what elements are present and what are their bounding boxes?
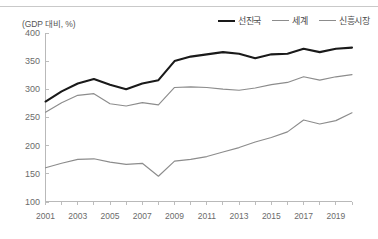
x-tick-label: 2001 [36, 211, 55, 221]
plot-area: 100150200250300350400 200120032005200720… [0, 0, 378, 239]
x-tick-label: 2011 [198, 211, 217, 221]
series-line-emerging [46, 113, 353, 176]
y-tick-label: 200 [25, 141, 40, 151]
x-tick-label: 2009 [165, 211, 184, 221]
y-tick-label: 250 [25, 112, 40, 122]
y-tick-label: 100 [25, 197, 40, 207]
y-tick-label: 300 [25, 84, 40, 94]
x-tick-label: 2015 [262, 211, 281, 221]
y-tick-label: 350 [25, 56, 40, 66]
y-tick-label: 400 [25, 28, 40, 38]
y-axis-tick-labels: 100150200250300350400 [25, 28, 40, 207]
series-lines [46, 48, 353, 177]
x-tick-label: 2005 [101, 211, 120, 221]
x-tick-label: 2019 [326, 211, 345, 221]
axis-tick-marks [46, 34, 353, 206]
chart-figure: (GDP 대비, %) 선진국 세계 신흥시장 1001502002503003… [0, 0, 378, 239]
x-tick-label: 2003 [68, 211, 87, 221]
y-tick-label: 150 [25, 169, 40, 179]
x-tick-label: 2013 [230, 211, 249, 221]
x-tick-label: 2007 [133, 211, 152, 221]
x-axis-tick-labels: 2001200320052007200920112013201520172019 [36, 211, 346, 221]
x-tick-label: 2017 [294, 211, 313, 221]
